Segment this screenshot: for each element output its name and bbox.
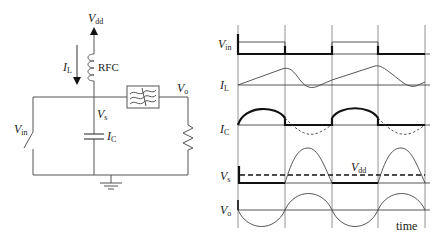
ic-label: IC: [106, 129, 116, 144]
trace-vin: Vin: [218, 34, 430, 54]
down-arrow-icon: [73, 77, 81, 85]
ground-icon: [100, 175, 122, 189]
switch: Vin: [14, 97, 33, 175]
bandpass-filter: [127, 86, 159, 108]
time-gridlines: [238, 25, 425, 228]
il-label: IL: [62, 60, 72, 75]
vin-label: Vin: [14, 122, 28, 137]
trace-label-ic: IC: [219, 122, 229, 137]
trace-label-vo: Vo: [220, 203, 231, 218]
rfc-label: RFC: [98, 61, 119, 73]
vdd-supply: Vdd: [88, 11, 103, 54]
waveform-panel: Vin IL IC Vs Vdd: [218, 25, 430, 233]
supply-arrow-icon: [90, 27, 98, 35]
trace-vo: Vo time: [220, 194, 430, 234]
trace-label-vs: Vs: [220, 169, 230, 184]
trace-vs: Vs Vdd: [220, 148, 430, 184]
vo-node-label: Vo: [177, 81, 188, 96]
time-axis-label: time: [396, 219, 417, 233]
vdd-level-label: Vdd: [351, 160, 366, 175]
figure: Vdd RFC IL Vo: [0, 0, 446, 241]
inductor-current-arrow: IL: [62, 45, 81, 85]
load-resistor: [183, 97, 193, 175]
trace-label-vin: Vin: [218, 37, 232, 52]
trace-label-il: IL: [219, 78, 229, 93]
trace-il: IL: [219, 66, 430, 93]
vdd-label: Vdd: [88, 11, 103, 26]
rfc-inductor: RFC: [88, 54, 119, 97]
trace-ic: IC: [219, 108, 430, 137]
vs-node-label: Vs: [97, 107, 107, 122]
circuit-schematic: Vdd RFC IL Vo: [14, 11, 193, 189]
